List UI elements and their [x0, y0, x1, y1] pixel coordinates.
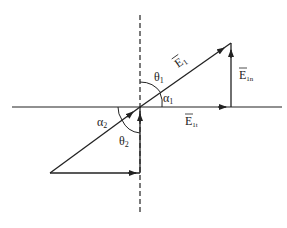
theta2-arc	[122, 120, 140, 133]
label-e1n: E1n	[239, 68, 254, 83]
svg-text:E1t: E1t	[185, 114, 198, 129]
label-theta2: θ2	[119, 134, 129, 149]
label-e1: E1	[172, 52, 190, 71]
e2-arrowhead	[127, 112, 133, 117]
label-e1t: E1t	[185, 114, 198, 129]
alpha2-arc	[118, 107, 122, 120]
e1-arrowhead	[218, 48, 224, 52]
diagram-canvas: E1 E1n E1t θ1 α1 α2 θ2	[0, 0, 287, 228]
alpha1-arc	[160, 93, 162, 107]
svg-text:E1: E1	[172, 52, 190, 71]
label-theta1: θ1	[154, 70, 164, 85]
svg-text:E1n: E1n	[239, 68, 254, 83]
label-alpha2: α2	[97, 115, 107, 130]
label-alpha1: α1	[163, 91, 173, 106]
diagram-svg: E1 E1n E1t θ1 α1 α2 θ2	[0, 0, 287, 228]
